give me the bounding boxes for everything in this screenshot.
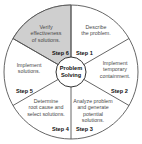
step-1-label: Step 1	[76, 50, 93, 56]
step-1-description: Describe the problem.	[73, 24, 119, 37]
step-3-label: Step 3	[76, 126, 93, 132]
step-4-description: Determine root cause and select solution…	[21, 98, 71, 117]
step-5-label: Step 5	[16, 88, 33, 94]
center-label-line1: Problem	[60, 65, 82, 72]
step-3-description: Analyze problem and generate potential s…	[70, 98, 116, 124]
center-label-line2: Solving	[61, 72, 81, 79]
step-2-description: Implement temporary containment.	[92, 60, 138, 79]
step-2-label: Step 2	[111, 88, 128, 94]
center-label: Problem Solving	[56, 57, 86, 87]
step-4-label: Step 4	[52, 126, 69, 132]
step-6-description: Verify effectiveness of solutions.	[23, 24, 69, 43]
step-5-description: Implement solutions.	[6, 62, 52, 75]
step-6-label: Step 6	[52, 50, 69, 56]
